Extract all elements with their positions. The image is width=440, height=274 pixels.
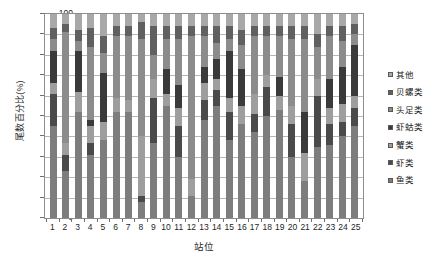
legend-item[interactable]: 其他 [388,66,440,84]
bar-segment[interactable] [326,79,333,108]
bar-segment[interactable] [188,196,195,218]
bar-segment[interactable] [113,26,120,36]
bar-segment[interactable] [314,96,321,147]
bar-segment[interactable] [175,39,182,86]
bar-slot[interactable] [122,14,135,218]
bar-segment[interactable] [75,41,82,51]
bar-segment[interactable] [276,14,283,26]
bar-slot[interactable] [60,14,73,218]
legend-item[interactable]: 蟹类 [388,136,440,154]
bar-segment[interactable] [251,26,258,36]
bar-segment[interactable] [263,87,270,116]
bar-segment[interactable] [326,145,333,218]
bar-segment[interactable] [301,181,308,218]
bar-segment[interactable] [213,79,220,89]
bar-segment[interactable] [138,136,145,195]
stacked-bar[interactable] [238,14,245,218]
bar-segment[interactable] [188,26,195,36]
legend-item[interactable]: 头足类 [388,101,440,119]
legend-item[interactable]: 鱼类 [388,172,440,190]
bar-segment[interactable] [238,14,245,30]
bar-segment[interactable] [226,39,233,51]
bar-segment[interactable] [100,36,107,52]
stacked-bar[interactable] [213,14,220,218]
bar-segment[interactable] [75,51,82,92]
bar-segment[interactable] [339,104,346,122]
bar-segment[interactable] [339,122,346,136]
bar-segment[interactable] [125,26,132,36]
bar-slot[interactable] [223,14,236,218]
bar-segment[interactable] [314,47,321,80]
bar-segment[interactable] [339,67,346,104]
bar-slot[interactable] [273,14,286,218]
bar-segment[interactable] [50,28,57,38]
bar-segment[interactable] [251,94,258,114]
stacked-bar[interactable] [201,14,208,218]
bar-slot[interactable] [336,14,349,218]
bar-segment[interactable] [87,28,94,46]
stacked-bar[interactable] [251,14,258,218]
bar-segment[interactable] [100,73,107,122]
bar-slot[interactable] [261,14,274,218]
bar-segment[interactable] [326,36,333,79]
bar-segment[interactable] [125,14,132,26]
bar-slot[interactable] [173,14,186,218]
bar-segment[interactable] [100,53,107,73]
bar-slot[interactable] [110,14,123,218]
bar-segment[interactable] [50,94,57,127]
bar-segment[interactable] [326,14,333,26]
bar-segment[interactable] [163,26,170,38]
bar-segment[interactable] [213,59,220,79]
bar-segment[interactable] [351,108,358,126]
bar-segment[interactable] [288,124,295,157]
bar-segment[interactable] [100,140,107,218]
bar-segment[interactable] [75,14,82,30]
bar-segment[interactable] [163,94,170,106]
bar-segment[interactable] [150,26,157,55]
bar-segment[interactable] [314,147,321,218]
bar-segment[interactable] [288,26,295,38]
bar-segment[interactable] [326,26,333,36]
stacked-bar[interactable] [301,14,308,218]
bar-segment[interactable] [238,69,245,106]
bar-segment[interactable] [150,55,157,79]
bar-segment[interactable] [251,36,258,93]
stacked-bar[interactable] [188,14,195,218]
bar-segment[interactable] [301,112,308,153]
bar-segment[interactable] [150,98,157,143]
bar-segment[interactable] [301,14,308,26]
bar-segment[interactable] [351,24,358,34]
stacked-bar[interactable] [138,14,145,218]
stacked-bar[interactable] [339,14,346,218]
bar-segment[interactable] [175,108,182,126]
bar-slot[interactable] [298,14,311,218]
stacked-bar[interactable] [175,14,182,218]
bar-segment[interactable] [351,126,358,218]
bar-segment[interactable] [138,22,145,38]
stacked-bar[interactable] [62,14,69,218]
bar-segment[interactable] [226,140,233,218]
stacked-bar[interactable] [125,14,132,218]
legend-item[interactable]: 虾类 [388,154,440,172]
bar-segment[interactable] [87,14,94,28]
bar-segment[interactable] [314,34,321,46]
bar-segment[interactable] [213,106,220,218]
bar-segment[interactable] [238,124,245,218]
bar-slot[interactable] [198,14,211,218]
bar-segment[interactable] [201,36,208,67]
bar-segment[interactable] [50,14,57,28]
bar-segment[interactable] [188,36,195,179]
stacked-bar[interactable] [263,14,270,218]
bar-segment[interactable] [339,14,346,26]
bar-segment[interactable] [301,153,308,182]
bar-segment[interactable] [150,14,157,26]
bar-segment[interactable] [226,112,233,141]
bar-segment[interactable] [125,112,132,218]
bar-segment[interactable] [263,36,270,75]
bar-slot[interactable] [210,14,223,218]
bar-segment[interactable] [138,14,145,22]
bar-segment[interactable] [87,143,94,155]
stacked-bar[interactable] [276,14,283,218]
bar-segment[interactable] [50,126,57,218]
bar-slot[interactable] [235,14,248,218]
